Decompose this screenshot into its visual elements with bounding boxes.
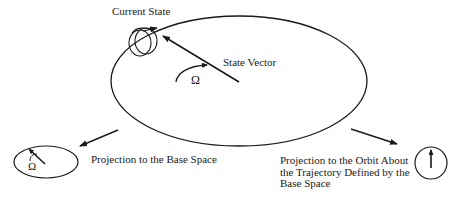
base-space-ellipse (14, 146, 78, 178)
current-state-spiral-icon (129, 28, 157, 56)
projection-orbit-label: Projection to the Orbit About the Trajec… (280, 155, 410, 190)
projection-orbit-arrow (351, 129, 397, 144)
projection-base-arrow (80, 130, 118, 146)
projection-base-label: Projection to the Base Space (91, 154, 217, 165)
projection-orbit-label-line1: Projection to the Orbit About (280, 155, 410, 167)
omega-main-label: Ω (191, 74, 200, 86)
current-state-label: Current State (112, 6, 170, 17)
projection-orbit-label-line3: Base Space (280, 178, 410, 190)
state-vector-label: State Vector (223, 57, 276, 68)
omega-base-label: Ω (28, 160, 36, 172)
